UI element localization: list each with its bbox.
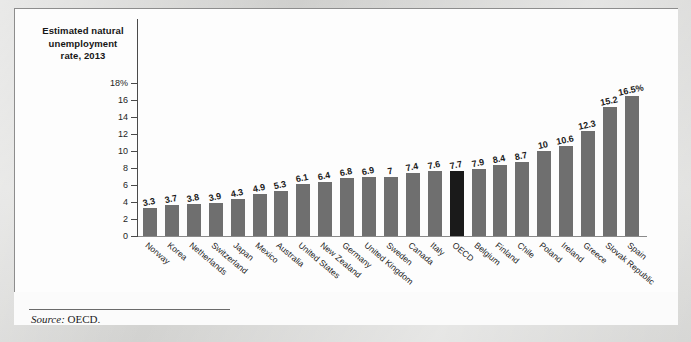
y-axis-line <box>137 19 138 237</box>
chart-area: Estimated naturalunemploymentrate, 2013 … <box>15 9 678 292</box>
y-axis-tick <box>131 202 138 203</box>
chart-card: Estimated naturalunemploymentrate, 2013 … <box>14 8 678 292</box>
bar[interactable] <box>274 191 288 236</box>
bar-value-label: 8.4 <box>492 153 506 165</box>
bar-value-label: 6.4 <box>317 170 331 182</box>
bar[interactable] <box>515 162 529 236</box>
bar-value-label: 7 <box>386 165 393 176</box>
bar[interactable] <box>318 182 332 236</box>
bar-value-label: 7.6 <box>426 159 440 171</box>
y-axis-tick <box>131 83 138 84</box>
y-axis-tick-label: 0 <box>123 231 128 241</box>
bar[interactable] <box>428 171 442 236</box>
y-axis-tick <box>131 134 138 135</box>
bar-value-label: 15.2 <box>599 94 618 107</box>
source-divider <box>29 309 230 310</box>
bar[interactable] <box>450 171 464 236</box>
bar-value-label: 6.9 <box>361 165 375 177</box>
chart-title: Estimated naturalunemploymentrate, 2013 <box>27 25 139 63</box>
y-axis-tick-label: 14 <box>118 112 128 122</box>
y-axis-tick <box>131 100 138 101</box>
bar-value-label: 10.6 <box>555 133 574 146</box>
bar-value-label: 12.3 <box>577 119 596 132</box>
bar[interactable] <box>472 169 486 236</box>
y-axis-tick-label: 6 <box>123 180 128 190</box>
bar-value-label: 6.1 <box>295 172 309 184</box>
y-axis-tick-label: 8 <box>123 163 128 173</box>
source-value: OECD. <box>68 313 101 325</box>
x-axis-category-label: Poland <box>538 240 565 265</box>
y-axis-tick <box>131 219 138 220</box>
x-axis-category-label: Ireland <box>560 240 586 264</box>
y-axis-tick <box>131 185 138 186</box>
y-axis-tick-label: 4 <box>123 197 128 207</box>
bar[interactable] <box>187 204 201 236</box>
bar[interactable] <box>296 184 310 236</box>
bar[interactable] <box>165 205 179 236</box>
y-axis-tick <box>131 151 138 152</box>
bar-value-label: 5.3 <box>273 179 287 191</box>
y-axis-tick-label: 16 <box>118 95 128 105</box>
bar-value-label: 3.7 <box>164 192 178 204</box>
bar[interactable] <box>209 203 223 236</box>
bar[interactable] <box>384 177 398 237</box>
bar[interactable] <box>559 146 573 236</box>
bar[interactable] <box>406 173 420 236</box>
bar-value-label: 3.3 <box>142 196 156 208</box>
bar[interactable] <box>493 165 507 236</box>
bar[interactable] <box>362 177 376 236</box>
bar-value-label: 4.3 <box>229 187 243 199</box>
bar[interactable] <box>231 199 245 236</box>
bar-value-label: 16.5% <box>617 82 644 97</box>
bar[interactable] <box>143 208 157 236</box>
chart-title-line: unemployment <box>27 38 139 51</box>
bar-value-label: 7.7 <box>448 158 462 170</box>
bar-value-label: 8.7 <box>514 150 528 162</box>
bar[interactable] <box>253 194 267 236</box>
y-axis-tick <box>131 236 138 237</box>
y-axis-tick-label: 10 <box>118 146 128 156</box>
x-axis-line <box>137 236 647 237</box>
chart-title-line: rate, 2013 <box>27 50 139 63</box>
y-axis-tick <box>131 117 138 118</box>
bar-value-label: 6.8 <box>339 166 353 178</box>
y-axis-tick <box>131 168 138 169</box>
x-axis-category-label: OECD <box>450 240 475 263</box>
y-axis-tick-label: 18% <box>110 78 128 88</box>
bar[interactable] <box>581 131 595 236</box>
bar[interactable] <box>340 178 354 236</box>
chart-title-line: Estimated natural <box>27 25 139 38</box>
bar[interactable] <box>537 151 551 236</box>
bar[interactable] <box>625 96 639 236</box>
bar[interactable] <box>603 107 617 236</box>
bar-value-label: 7.9 <box>470 157 484 169</box>
source-note: Source: OECD. <box>31 313 100 325</box>
y-axis-tick-label: 2 <box>123 214 128 224</box>
source-label: Source: <box>31 313 65 325</box>
bar-value-label: 4.9 <box>251 182 265 194</box>
bar-value-label: 7.4 <box>405 161 419 173</box>
bar-value-label: 10 <box>537 139 549 151</box>
bar-value-label: 3.8 <box>186 192 200 204</box>
bar-value-label: 3.9 <box>207 191 221 203</box>
y-axis-tick-label: 12 <box>118 129 128 139</box>
plot-region: 024681012141618% 3.33.73.83.94.34.95.36.… <box>137 19 665 287</box>
